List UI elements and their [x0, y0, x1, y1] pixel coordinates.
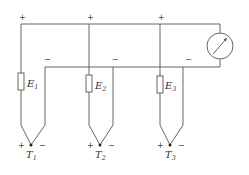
- junction-label-3: T3: [165, 149, 176, 162]
- junction-minus-2: −: [108, 141, 115, 150]
- emf-label-2: E2: [94, 80, 106, 93]
- junction-plus-3: +: [157, 141, 164, 150]
- top-minus-2: −: [112, 55, 119, 64]
- junction-plus-2: +: [87, 141, 94, 150]
- emf-resistor-3: [157, 76, 163, 93]
- emf-resistor-1: [18, 73, 24, 90]
- junction-minus-3: −: [178, 141, 185, 150]
- top-minus-1: −: [44, 55, 51, 64]
- top-plus-2: +: [87, 13, 94, 22]
- negative-bus-wire: [45, 59, 220, 67]
- junction-minus-1: −: [39, 141, 46, 150]
- top-plus-3: +: [158, 13, 165, 22]
- junction-dot-3: [169, 144, 172, 147]
- emf-label-1: E1: [26, 78, 38, 91]
- emf-label-3: E3: [164, 80, 176, 93]
- thermocouple-circuit-diagram: + + + − − − E1 E2 E3 + − + − + − T1 T2 T…: [0, 0, 249, 175]
- junction-label-2: T2: [95, 149, 106, 162]
- junction-plus-1: +: [18, 141, 25, 150]
- positive-bus-wire: [21, 24, 220, 33]
- top-plus-1: +: [19, 13, 26, 22]
- galvanometer-icon: [207, 33, 233, 59]
- emf-resistor-2: [86, 75, 92, 92]
- junction-dot-1: [30, 144, 33, 147]
- junction-label-1: T1: [26, 149, 37, 162]
- top-minus-3: −: [185, 55, 192, 64]
- junction-dot-2: [99, 144, 102, 147]
